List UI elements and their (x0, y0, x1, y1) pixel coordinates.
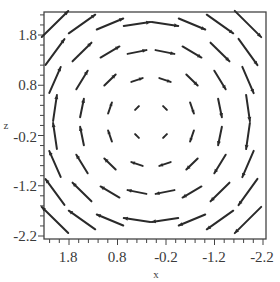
y-axis-tick-labels: 1.80.8-0.2-1.2-2.2 (13, 27, 37, 244)
vector-arrow (211, 43, 230, 62)
vector-arrow (124, 21, 150, 26)
vector-arrow (101, 186, 120, 197)
vector-arrow (108, 130, 112, 141)
vector-arrow (242, 67, 254, 93)
y-axis-label: z (4, 119, 9, 131)
vector-arrow (242, 151, 254, 177)
vector-arrow (152, 22, 178, 27)
vector-arrow (76, 155, 87, 174)
y-tick-label: -1.2 (13, 178, 37, 194)
y-tick-label: -0.2 (13, 129, 37, 145)
vector-arrow (42, 11, 68, 37)
x-tick-label: -0.2 (154, 249, 178, 265)
vector-arrow (124, 217, 150, 222)
vector-arrow (49, 67, 61, 93)
vector-arrow (76, 71, 87, 90)
vector-arrow (128, 49, 147, 54)
vector-arrow (108, 102, 112, 113)
vector-arrow (214, 155, 225, 174)
vector-arrow (246, 95, 251, 121)
vector-arrow (73, 43, 92, 62)
x-tick-label: -1.2 (202, 249, 226, 265)
vector-arrow (159, 162, 170, 166)
vector-arrow (52, 123, 57, 149)
vector-arrow (152, 218, 178, 223)
vector-arrow (183, 186, 202, 197)
vector-arrow (156, 50, 175, 55)
y-tick-label: -2.2 (13, 228, 37, 244)
vector-arrow (235, 11, 261, 37)
x-axis-label: x (153, 268, 159, 280)
vector-arrow (163, 134, 167, 138)
vector-arrow (97, 214, 123, 225)
vector-arrow (46, 39, 65, 65)
vector-arrow (183, 46, 202, 57)
vector-arrow (217, 127, 222, 146)
vector-arrow (131, 78, 142, 82)
vector-arrow (179, 18, 205, 29)
vector-arrow (79, 127, 84, 146)
vector-arrow (69, 211, 95, 230)
x-axis-tick-labels: 1.80.8-0.2-1.2-2.2 (59, 249, 274, 265)
vector-arrow (207, 211, 233, 230)
vector-arrow (46, 179, 65, 205)
x-tick-label: 0.8 (108, 249, 127, 265)
vector-arrow (128, 189, 147, 194)
y-tick-label: 0.8 (18, 77, 37, 93)
x-tick-label: -2.2 (250, 249, 274, 265)
vector-arrow (101, 46, 120, 57)
vector-arrow (69, 15, 95, 34)
vector-arrow (42, 207, 68, 233)
x-tick-label: 1.8 (59, 249, 78, 265)
vector-arrow (207, 15, 233, 34)
vector-arrow (104, 158, 115, 169)
vector-arrow (163, 106, 167, 110)
vector-arrow (211, 183, 230, 202)
vector-arrows (42, 11, 261, 233)
vector-arrow (186, 158, 197, 169)
vector-arrow (159, 78, 170, 82)
vector-arrow (49, 151, 61, 177)
vector-arrow (239, 179, 258, 205)
vector-arrow (131, 162, 142, 166)
vector-arrow (80, 99, 85, 118)
vector-arrow (214, 71, 225, 90)
vector-arrow (190, 102, 194, 113)
vector-field-plot: 1.80.8-0.2-1.2-2.2 1.80.8-0.2-1.2-2.2 x … (0, 0, 280, 282)
y-axis-ticks (38, 15, 44, 236)
vector-arrow (186, 74, 197, 85)
x-axis-ticks (50, 239, 263, 245)
vector-arrow (135, 134, 139, 138)
vector-arrow (218, 99, 223, 118)
vector-arrow (156, 190, 175, 195)
vector-arrow (179, 214, 205, 225)
vector-arrow (239, 39, 258, 65)
vector-arrow (73, 183, 92, 202)
vector-arrow (97, 18, 123, 29)
vector-arrow (53, 95, 58, 121)
vector-arrow (245, 123, 250, 149)
vector-arrow (104, 74, 115, 85)
vector-arrow (135, 106, 139, 110)
vector-arrow (190, 130, 194, 141)
plot-frame (44, 12, 266, 239)
y-tick-label: 1.8 (18, 27, 37, 43)
vector-arrow (235, 207, 261, 233)
